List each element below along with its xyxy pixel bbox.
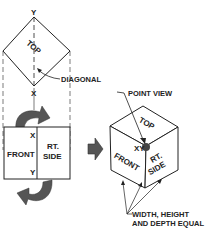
rotate-arrow-lower-icon	[17, 180, 52, 205]
top-x-label: X	[31, 89, 37, 98]
rotate-arrow-upper-icon	[16, 106, 50, 130]
isometric-cube: POINT VIEW TOP XY FRONT RT. SIDE WIDTH, …	[110, 89, 205, 228]
front-side-view: X Y FRONT RT. SIDE	[4, 127, 70, 179]
front-x-label: X	[30, 131, 36, 140]
top-y-label: Y	[31, 8, 37, 17]
side-label-line1: RT.	[47, 142, 59, 151]
side-label-line2: SIDE	[43, 152, 62, 161]
equal-label-line1: WIDTH, HEIGHT	[132, 210, 189, 219]
front-y-label: Y	[30, 168, 36, 177]
isometric-diagram: Y X TOP DIAGONAL X Y FRONT RT. SIDE POIN…	[0, 0, 214, 235]
diagonal-label: DIAGONAL	[61, 75, 101, 84]
transform-arrow-icon	[88, 138, 103, 160]
front-label: FRONT	[7, 150, 35, 159]
equal-label-line2: AND DEPTH EQUAL	[132, 219, 205, 228]
point-view-label: POINT VIEW	[128, 89, 173, 98]
cube-xy-label: XY	[134, 144, 145, 153]
